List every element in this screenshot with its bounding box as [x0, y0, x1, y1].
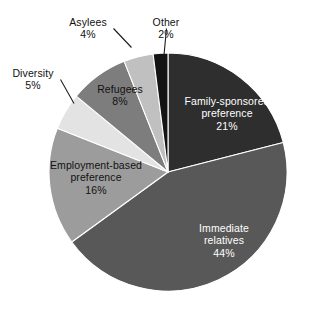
slice-label-immediate-relatives-percent: 44% [170, 247, 278, 259]
slice-label-diversity-percent: 5% [4, 79, 62, 91]
slice-label-diversity-line1: Diversity [4, 67, 62, 79]
slice-label-refugees: Refugees 8% [89, 83, 151, 108]
slice-label-immediate-relatives-line2: relatives [170, 234, 278, 246]
slice-label-family-sponsored: Family-sponsored preference 21% [168, 95, 286, 132]
slice-label-asylees: Asylees 4% [62, 16, 114, 41]
slice-label-other: Other 2% [141, 16, 191, 41]
slice-label-family-sponsored-line2: preference [168, 107, 286, 119]
slice-label-family-sponsored-percent: 21% [168, 120, 286, 132]
slice-label-employment-based-line2: preference [34, 171, 158, 183]
leader-line-diversity [61, 80, 75, 104]
slice-label-immediate-relatives: Immediate relatives 44% [170, 222, 278, 259]
slice-label-immediate-relatives-line1: Immediate [170, 222, 278, 234]
leader-line-asylees [114, 29, 132, 48]
slice-label-refugees-line1: Refugees [89, 83, 151, 95]
pie-chart: Family-sponsored preference 21% Immediat… [0, 0, 319, 317]
slice-label-refugees-percent: 8% [89, 95, 151, 107]
slice-label-employment-based-line1: Employment-based [34, 159, 158, 171]
slice-label-other-percent: 2% [141, 28, 191, 40]
slice-label-diversity: Diversity 5% [4, 67, 62, 92]
slice-label-asylees-percent: 4% [62, 28, 114, 40]
slice-label-employment-based: Employment-based preference 16% [34, 159, 158, 196]
slice-label-asylees-line1: Asylees [62, 16, 114, 28]
slice-label-family-sponsored-line1: Family-sponsored [168, 95, 286, 107]
slice-label-employment-based-percent: 16% [34, 184, 158, 196]
slice-label-other-line1: Other [141, 16, 191, 28]
